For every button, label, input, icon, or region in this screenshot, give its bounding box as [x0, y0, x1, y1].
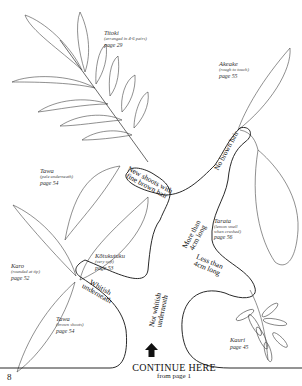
plant-page-ref[interactable]: page 56 [214, 234, 241, 240]
continue-subtitle[interactable]: from page 1 [120, 372, 228, 380]
plant-name: Kauri [230, 337, 249, 344]
tawa-leaf-drawing [65, 166, 120, 240]
plant-label-tawa-pale: Tawa (pale underneath) page 54 [40, 168, 73, 186]
kauri-sprig-drawing [235, 290, 289, 362]
plant-label-tarata: Tarata (lemon smell when crushed) page 5… [214, 218, 241, 241]
plant-page-ref[interactable]: page 45 [230, 344, 249, 350]
plant-note: (rough to touch) [219, 68, 249, 73]
plant-label-titoki: Titoki (arranged in 4-6 pairs) page 29 [104, 30, 147, 48]
plant-page-ref[interactable]: page 52 [11, 275, 40, 281]
plant-note: (brown shoots) [56, 323, 84, 328]
up-arrow-icon [145, 343, 158, 357]
plant-note: (arranged in 4-6 pairs) [104, 37, 147, 42]
plant-label-tawa-brown: Tawa (brown shoots) page 54 [56, 316, 84, 334]
plant-label-akeake: Akeake (rough to touch) page 55 [219, 61, 249, 79]
plant-label-kauri: Kauri page 45 [230, 337, 249, 350]
page-number: 8 [7, 372, 12, 382]
plant-note: (rounded at tip) [11, 270, 40, 275]
plant-page-ref[interactable]: page 55 [219, 73, 249, 79]
plant-page-ref[interactable]: page 53 [95, 265, 125, 271]
tarata-leaf-drawing [240, 130, 298, 265]
plant-note: (pale underneath) [40, 175, 73, 180]
continue-here: CONTINUE HERE from page 1 [120, 362, 228, 380]
plant-page-ref[interactable]: page 54 [40, 180, 73, 186]
plant-page-ref[interactable]: page 54 [56, 328, 84, 334]
plant-label-karo: Karo (rounded at tip) page 52 [11, 263, 40, 281]
plant-page-ref[interactable]: page 29 [104, 42, 147, 48]
plant-label-kotukutuku: Kōtukutuku (very soft) page 53 [95, 253, 125, 271]
